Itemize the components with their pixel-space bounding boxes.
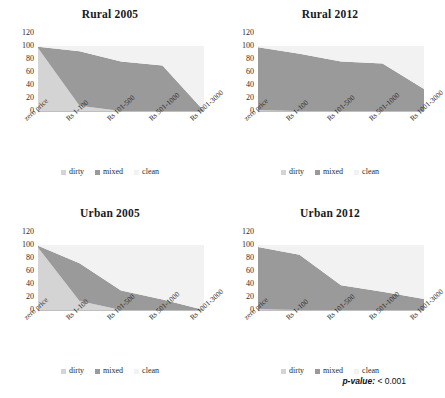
chart-title: Rural 2005 [0, 8, 220, 20]
y-axis-tick-label: 40 [4, 81, 34, 89]
legend-swatch-mixed-icon [315, 170, 320, 175]
legend-label: clean [362, 168, 379, 176]
y-axis-tick-label: 120 [4, 228, 34, 236]
p-value-annotation: p-value: < 0.001 [342, 376, 406, 386]
legend-label: mixed [323, 367, 343, 375]
legend-label: clean [142, 367, 159, 375]
y-axis-tick-label: 100 [4, 241, 34, 249]
y-axis-tick-label: 120 [4, 29, 34, 37]
legend-item-clean[interactable]: clean [134, 367, 159, 375]
y-axis-tick-label: 20 [4, 94, 34, 102]
legend-item-dirty[interactable]: dirty [61, 168, 84, 176]
x-axis-labels: zero priceRs 1-100Rs 101-500Rs 501-1000R… [220, 112, 440, 168]
y-axis-tick-label: 60 [4, 68, 34, 76]
chart-panel-rural-2005: Rural 2005 020406080100120 zero priceRs … [0, 0, 220, 199]
y-axis-tick-label: 20 [224, 94, 254, 102]
y-axis-tick-label: 120 [224, 228, 254, 236]
x-axis-labels: zero priceRs 1-100Rs 101-500Rs 501-1000R… [0, 112, 220, 168]
chart-legend: dirtymixedclean [220, 168, 440, 176]
legend-item-mixed[interactable]: mixed [95, 367, 123, 375]
legend-swatch-mixed-icon [315, 369, 320, 374]
y-axis-tick-label: 40 [224, 280, 254, 288]
legend-swatch-clean-icon [354, 170, 359, 175]
legend-item-clean[interactable]: clean [354, 168, 379, 176]
legend-item-clean[interactable]: clean [354, 367, 379, 375]
x-axis-labels: zero priceRs 1-100Rs 101-500Rs 501-1000R… [0, 311, 220, 367]
plot-area [38, 33, 204, 111]
legend-label: dirty [69, 168, 84, 176]
legend-item-mixed[interactable]: mixed [315, 168, 343, 176]
plot-area [258, 33, 424, 111]
y-axis-tick-label: 60 [4, 267, 34, 275]
y-axis-tick-label: 100 [224, 42, 254, 50]
legend-swatch-clean-icon [354, 369, 359, 374]
legend-swatch-dirty-icon [281, 170, 286, 175]
y-axis-tick-label: 80 [224, 254, 254, 262]
legend-swatch-clean-icon [134, 369, 139, 374]
legend-swatch-dirty-icon [61, 369, 66, 374]
legend-label: mixed [103, 168, 123, 176]
legend-swatch-dirty-icon [281, 369, 286, 374]
y-axis-tick-label: 60 [224, 267, 254, 275]
p-value-key: p-value: [342, 376, 375, 386]
y-axis-tick-label: 80 [224, 55, 254, 63]
legend-swatch-dirty-icon [61, 170, 66, 175]
legend-label: dirty [69, 367, 84, 375]
legend-swatch-mixed-icon [95, 369, 100, 374]
chart-title: Rural 2012 [220, 8, 440, 20]
y-axis-tick-label: 20 [4, 293, 34, 301]
plot-area [38, 232, 204, 310]
chart-panel-urban-2012: Urban 2012 020406080100120 zero priceRs … [220, 199, 440, 398]
legend-swatch-mixed-icon [95, 170, 100, 175]
chart-panel-rural-2012: Rural 2012 020406080100120 zero priceRs … [220, 0, 440, 199]
chart-panel-urban-2005: Urban 2005 020406080100120 zero priceRs … [0, 199, 220, 398]
legend-item-dirty[interactable]: dirty [281, 367, 304, 375]
y-axis-tick-label: 40 [224, 81, 254, 89]
legend-label: mixed [103, 367, 123, 375]
legend-item-clean[interactable]: clean [134, 168, 159, 176]
y-axis-tick-label: 60 [224, 68, 254, 76]
y-axis-tick-label: 80 [4, 254, 34, 262]
chart-legend: dirtymixedclean [0, 367, 220, 375]
y-axis-tick-label: 20 [224, 293, 254, 301]
legend-item-dirty[interactable]: dirty [61, 367, 84, 375]
chart-title: Urban 2005 [0, 207, 220, 219]
y-axis-tick-label: 120 [224, 29, 254, 37]
chart-legend: dirtymixedclean [0, 168, 220, 176]
y-axis-tick-label: 100 [224, 241, 254, 249]
chart-title: Urban 2012 [220, 207, 440, 219]
legend-item-mixed[interactable]: mixed [95, 168, 123, 176]
legend-label: dirty [289, 367, 304, 375]
legend-label: mixed [323, 168, 343, 176]
legend-label: dirty [289, 168, 304, 176]
plot-area [258, 232, 424, 310]
chart-legend: dirtymixedclean [220, 367, 440, 375]
legend-item-dirty[interactable]: dirty [281, 168, 304, 176]
y-axis-tick-label: 80 [4, 55, 34, 63]
x-axis-labels: zero priceRs 1-100Rs 101-500Rs 501-1000R… [220, 311, 440, 367]
y-axis-tick-label: 40 [4, 280, 34, 288]
legend-label: clean [142, 168, 159, 176]
legend-item-mixed[interactable]: mixed [315, 367, 343, 375]
y-axis-tick-label: 100 [4, 42, 34, 50]
p-value-value: < 0.001 [377, 376, 406, 386]
legend-label: clean [362, 367, 379, 375]
legend-swatch-clean-icon [134, 170, 139, 175]
